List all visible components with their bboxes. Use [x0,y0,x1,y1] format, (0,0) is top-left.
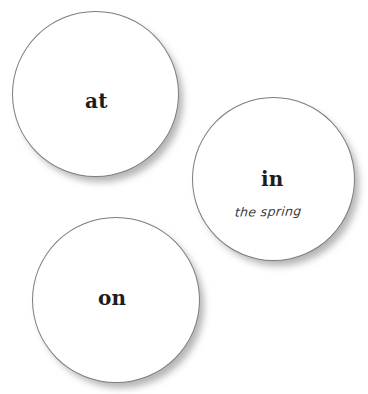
circle-word-in: in [261,169,284,189]
circles-board: at in the spring on [0,0,368,394]
circle-card-at[interactable]: at [12,11,179,177]
circle-word-at: at [85,91,108,111]
circle-word-on: on [98,288,126,308]
circle-card-on[interactable]: on [32,217,200,383]
circle-subtext-in: the spring [234,205,302,219]
circle-card-in[interactable]: in the spring [192,97,355,261]
